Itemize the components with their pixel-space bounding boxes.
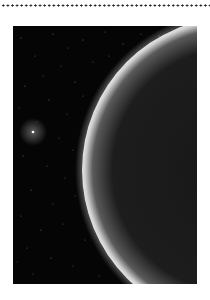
- planet-photo: [13, 26, 197, 284]
- dotted-divider: [0, 4, 210, 7]
- page: [0, 0, 210, 300]
- bright-star: [19, 118, 47, 146]
- space-scene: [13, 26, 197, 284]
